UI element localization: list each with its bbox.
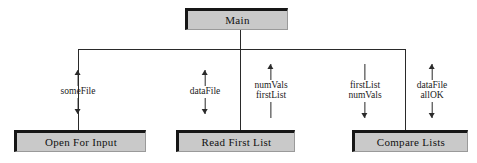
- couple-labels: someFile: [61, 86, 96, 98]
- module-label: Open For Input: [45, 136, 117, 148]
- couple-label: firstList: [256, 91, 286, 101]
- couple-bottom-stem-down: [361, 102, 370, 118]
- arrowhead-down-icon: [75, 109, 81, 114]
- couple-labels: dataFileallOK: [417, 80, 448, 102]
- module-box-open-for-input[interactable]: Open For Input: [14, 130, 146, 152]
- module-label: Compare Lists: [377, 136, 445, 148]
- arrowhead-up-icon: [268, 64, 274, 69]
- arrowhead-down-icon: [428, 113, 434, 118]
- couple-labels: dataFile: [190, 86, 221, 98]
- couple-line: [271, 102, 272, 118]
- couple-labels: numValsfirstList: [254, 80, 287, 102]
- module-label: Main: [225, 14, 249, 26]
- data-couple-first-list-num-vals: firstListnumVals: [348, 64, 381, 118]
- arrowhead-down-icon: [201, 109, 207, 114]
- arrowhead-down-icon: [362, 113, 368, 118]
- couple-line: [365, 64, 366, 80]
- module-box-read-first-list[interactable]: Read First List: [176, 130, 295, 152]
- arrowhead-up-icon: [75, 70, 81, 75]
- couple-top-stem-plain: [361, 64, 370, 80]
- data-couple-num-vals-first-list: numValsfirstList: [254, 64, 287, 118]
- couple-top-stem-up: [74, 70, 83, 86]
- arrowhead-up-icon: [201, 70, 207, 75]
- couple-label: numVals: [348, 91, 381, 101]
- module-label: Read First List: [202, 136, 272, 148]
- couple-label: someFile: [61, 87, 96, 97]
- couple-label: allOK: [420, 91, 443, 101]
- couple-labels: firstListnumVals: [348, 80, 381, 102]
- couple-bottom-stem-down: [200, 98, 209, 114]
- couple-top-stem-up: [267, 64, 276, 80]
- couple-top-stem-up: [200, 70, 209, 86]
- structure-chart: MainOpen For InputRead First ListCompare…: [0, 0, 477, 163]
- couple-bottom-stem-down: [427, 102, 436, 118]
- couple-bottom-stem-down: [74, 98, 83, 114]
- couple-top-stem-up: [427, 64, 436, 80]
- couple-label: dataFile: [190, 87, 221, 97]
- couple-bottom-stem-plain: [267, 102, 276, 118]
- data-couple-some-file: someFile: [61, 70, 96, 114]
- arrowhead-up-icon: [428, 64, 434, 69]
- data-couple-data-file-all-ok: dataFileallOK: [417, 64, 448, 118]
- module-box-main[interactable]: Main: [185, 8, 288, 30]
- module-box-compare-lists[interactable]: Compare Lists: [352, 130, 468, 152]
- data-couple-data-file-read: dataFile: [190, 70, 221, 114]
